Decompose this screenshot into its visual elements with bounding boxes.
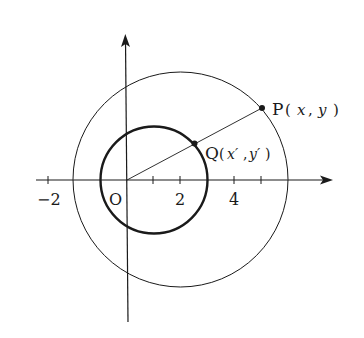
label-origin: O: [109, 190, 122, 209]
label-P: P ( x , y ): [272, 99, 339, 119]
label-Q-close: ): [265, 146, 270, 162]
label-P-close: ): [333, 101, 339, 119]
point-Q: [192, 141, 198, 147]
coordinate-diagram: −2 O 2 4 P ( x , y ) Q ( x′ , y′ ): [0, 0, 364, 338]
label-P-letter: P: [272, 99, 283, 119]
y-axis: [121, 34, 130, 322]
label-Q-comma: ,: [243, 146, 247, 162]
label-neg2: −2: [37, 190, 61, 209]
label-Q-letter: Q: [205, 143, 219, 163]
label-4: 4: [229, 190, 239, 209]
label-Q-open: (: [219, 146, 224, 162]
label-P-open: (: [285, 101, 291, 119]
label-Q: Q ( x′ , y′ ): [205, 143, 270, 163]
label-2: 2: [175, 190, 185, 209]
label-P-y: y: [317, 101, 327, 119]
label-Q-x: x′: [227, 146, 239, 162]
label-Q-y: y′: [248, 146, 261, 162]
point-P: [259, 105, 265, 111]
label-P-comma: ,: [308, 101, 313, 119]
label-P-x: x: [297, 101, 306, 119]
